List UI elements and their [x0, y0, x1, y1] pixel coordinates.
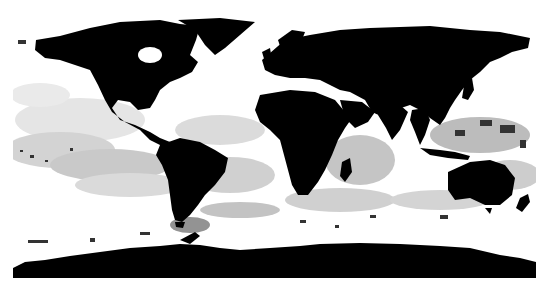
bottom-margin: [0, 278, 548, 287]
world-map: [0, 0, 548, 287]
right-margin: [536, 0, 548, 287]
left-margin: [0, 0, 13, 287]
